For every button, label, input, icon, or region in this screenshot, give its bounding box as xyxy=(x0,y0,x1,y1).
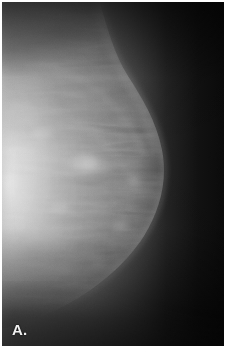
film-grain xyxy=(2,2,224,346)
radiograph-plate: A. xyxy=(2,2,224,346)
mammogram-image xyxy=(2,2,224,346)
figure-panel-a: A. xyxy=(0,0,226,352)
